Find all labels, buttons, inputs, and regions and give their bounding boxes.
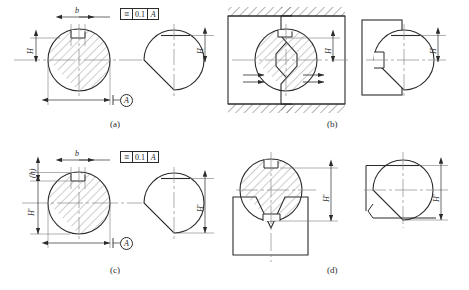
panel-c-section-view xyxy=(22,160,142,248)
panel-d xyxy=(233,152,448,262)
dimension-label-b-c: b xyxy=(75,149,79,158)
panel-c xyxy=(22,160,214,248)
dimension-label-Hp-d-left: H′ xyxy=(322,194,331,202)
panel-b-right-view xyxy=(362,20,446,96)
vblock-clip-d-right xyxy=(368,204,380,218)
symmetry-symbol-icon: ≡ xyxy=(121,9,133,19)
datum-reference-a: A xyxy=(148,9,158,19)
panel-caption-d: (d) xyxy=(327,265,338,275)
tolerance-value-c: 0.1 xyxy=(133,152,148,162)
panel-caption-a: (a) xyxy=(110,119,120,129)
panel-d-right-view xyxy=(364,152,448,228)
dimension-label-b-a: b xyxy=(75,6,79,15)
hatch-wall-top-right-b xyxy=(281,7,345,16)
drawing-canvas xyxy=(0,0,469,290)
hatch-wall-bottom-right-b xyxy=(281,104,345,113)
panel-caption-b: (b) xyxy=(327,119,338,129)
dimension-label-H-a-right: H xyxy=(196,48,205,54)
vblock-relief-d xyxy=(263,214,280,221)
dimension-label-Hp-c-right: H′ xyxy=(196,204,205,212)
feature-control-frame-c: ≡ 0.1 A xyxy=(120,151,159,163)
feature-control-frame-a: ≡ 0.1 A xyxy=(120,8,159,20)
dimension-label-Hp-c-left: H′ xyxy=(27,208,36,216)
symmetry-symbol-icon: ≡ xyxy=(121,152,133,162)
dimension-label-Hp-d-right: H′ xyxy=(432,194,441,202)
datum-reference-c: A xyxy=(148,152,158,162)
panel-caption-c: (c) xyxy=(110,265,120,275)
engineering-drawing-sheet: ≡ 0.1 A ≡ 0.1 A A A b H H H H (h) b H′ H… xyxy=(0,0,469,290)
datum-feature-symbol-c: A xyxy=(120,237,133,250)
panel-b xyxy=(228,7,446,113)
panel-a-right-view xyxy=(144,24,214,96)
dimension-label-h-c: (h) xyxy=(28,169,37,178)
panel-d-vblock-view xyxy=(233,152,338,262)
datum-feature-symbol-a: A xyxy=(120,94,133,107)
tolerance-value-a: 0.1 xyxy=(133,9,148,19)
panel-c-right-view xyxy=(144,167,214,239)
dimension-label-H-a-left: H xyxy=(26,48,35,54)
dimension-label-H-b-left: H xyxy=(324,48,333,54)
dimension-label-H-b-right: H xyxy=(429,48,438,54)
panel-b-fixture-view xyxy=(228,7,348,113)
panel-a xyxy=(14,17,214,105)
panel-a-section-view xyxy=(14,17,142,105)
